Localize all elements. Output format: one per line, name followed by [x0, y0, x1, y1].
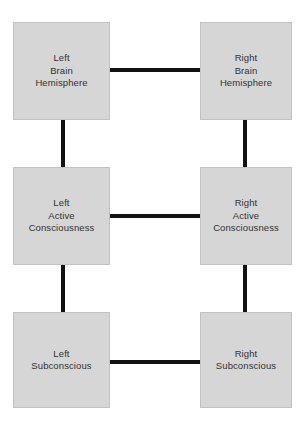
node-left-brain-hemisphere[interactable]: Left Brain Hemisphere: [13, 22, 110, 120]
node-right-brain-hemisphere[interactable]: Right Brain Hemisphere: [200, 22, 292, 120]
diagram-canvas: Left Brain Hemisphere Right Brain Hemisp…: [0, 0, 307, 425]
node-label-right-active-consciousness: Right Active Consciousness: [213, 197, 279, 235]
node-label-right-brain-hemisphere: Right Brain Hemisphere: [220, 52, 272, 90]
connector-left-active-to-subconscious: [61, 262, 65, 315]
node-label-left-subconscious: Left Subconscious: [31, 348, 91, 373]
node-right-subconscious[interactable]: Right Subconscious: [200, 312, 292, 408]
connector-right-active-to-subconscious: [243, 262, 247, 315]
node-left-active-consciousness[interactable]: Left Active Consciousness: [13, 167, 110, 265]
connector-brain-hemispheres: [106, 68, 202, 72]
connector-right-brain-to-active: [243, 117, 247, 170]
node-label-right-subconscious: Right Subconscious: [216, 348, 276, 373]
connector-left-brain-to-active: [61, 117, 65, 170]
node-label-left-brain-hemisphere: Left Brain Hemisphere: [35, 52, 87, 90]
node-label-left-active-consciousness: Left Active Consciousness: [29, 197, 95, 235]
connector-subconscious: [106, 360, 202, 364]
node-left-subconscious[interactable]: Left Subconscious: [13, 312, 110, 408]
connector-active-consciousness: [106, 214, 202, 218]
node-right-active-consciousness[interactable]: Right Active Consciousness: [200, 167, 292, 265]
